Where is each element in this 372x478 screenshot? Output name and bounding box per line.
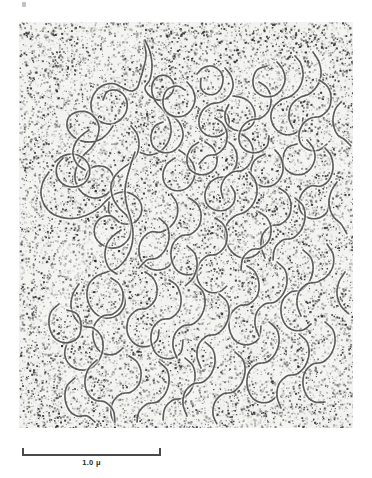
- figure-root: 1.0 μ: [0, 0, 372, 478]
- scale-bar-line: [22, 454, 161, 456]
- plate-artifact-speck: [22, 2, 26, 7]
- scale-bar-tick-left: [22, 448, 24, 456]
- micrograph-plate: [19, 22, 353, 428]
- scale-bar-tick-right: [159, 448, 161, 456]
- scale-bar-label: 1.0 μ: [22, 458, 161, 467]
- scale-bar: 1.0 μ: [22, 446, 164, 476]
- micrograph-grain-layer: [19, 22, 353, 428]
